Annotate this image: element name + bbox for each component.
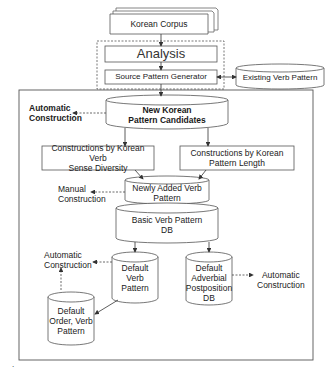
korean-corpus-label: Korean Corpus [130,19,187,29]
default-adverbial-postposition-db-node: Default Adverbial Postposition DB [184,263,234,303]
manual-line2: Construction [58,194,106,204]
korean-corpus-node: Korean Corpus [110,14,208,34]
source-pattern-generator-label: Source Pattern Generator [115,72,207,82]
newly-added-line1: Newly Added Verb [132,183,201,193]
basic-verb-pattern-db-node: Basic Verb Pattern DB [116,213,218,237]
newly-added-line2: Pattern [153,193,180,203]
automatic-construction-left-annotation: Automatic Construction [44,250,92,270]
default-order-verb-pattern-node: Default Order, Verb Pattern [48,305,94,337]
automatic-construction-top-annotation: Automatic Construction [29,103,82,123]
auto-top-line2: Construction [29,113,82,123]
default-verb-pattern-line2: Verb Pattern [112,273,158,293]
basic-verb-pattern-line2: DB [161,225,173,235]
automatic-construction-right-annotation: Automatic Construction [257,270,305,290]
source-pattern-generator-node: Source Pattern Generator [105,70,217,84]
default-order-line1: Default [58,306,85,316]
default-order-line2: Order, Verb [49,316,92,326]
default-adverbial-line1: Default [196,263,223,273]
constructions-sense-line2: Sense Diversity [68,163,127,173]
analysis-label: Analysis [137,49,185,59]
basic-verb-pattern-line1: Basic Verb Pattern [132,215,202,225]
auto-left-line2: Construction [44,260,92,270]
auto-right-line1: Automatic [257,270,305,280]
default-order-line3: Pattern [57,326,84,336]
constructions-length-line2: Pattern Length [209,158,265,168]
default-verb-pattern-node: Default Verb Pattern [112,266,158,290]
existing-verb-pattern-label: Existing Verb Pattern [243,73,318,83]
new-pattern-candidates-line2: Pattern Candidates [128,115,205,125]
constructions-pattern-length-node: Constructions by Korean Pattern Length [180,146,294,170]
footnote-mark: . [12,360,14,370]
constructions-length-line1: Constructions by Korean [190,148,283,158]
default-adverbial-line4: DB [203,293,215,303]
manual-line1: Manual [58,184,106,194]
new-pattern-candidates-line1: New Korean [142,105,191,115]
auto-right-line2: Construction [257,280,305,290]
new-pattern-candidates-node: New Korean Pattern Candidates [106,104,228,126]
manual-construction-annotation: Manual Construction [58,184,106,204]
existing-verb-pattern-node: Existing Verb Pattern [236,71,324,85]
default-adverbial-line2: Adverbial [191,273,226,283]
analysis-node: Analysis [105,46,217,62]
auto-left-line1: Automatic [44,250,92,260]
constructions-sense-line1: Constructions by Korean Verb [42,143,154,163]
default-verb-pattern-line1: Default [122,263,149,273]
auto-top-line1: Automatic [29,103,82,113]
constructions-sense-diversity-node: Constructions by Korean Verb Sense Diver… [42,146,154,170]
newly-added-verb-pattern-node: Newly Added Verb Pattern [125,183,209,203]
default-adverbial-line3: Postposition [186,283,232,293]
